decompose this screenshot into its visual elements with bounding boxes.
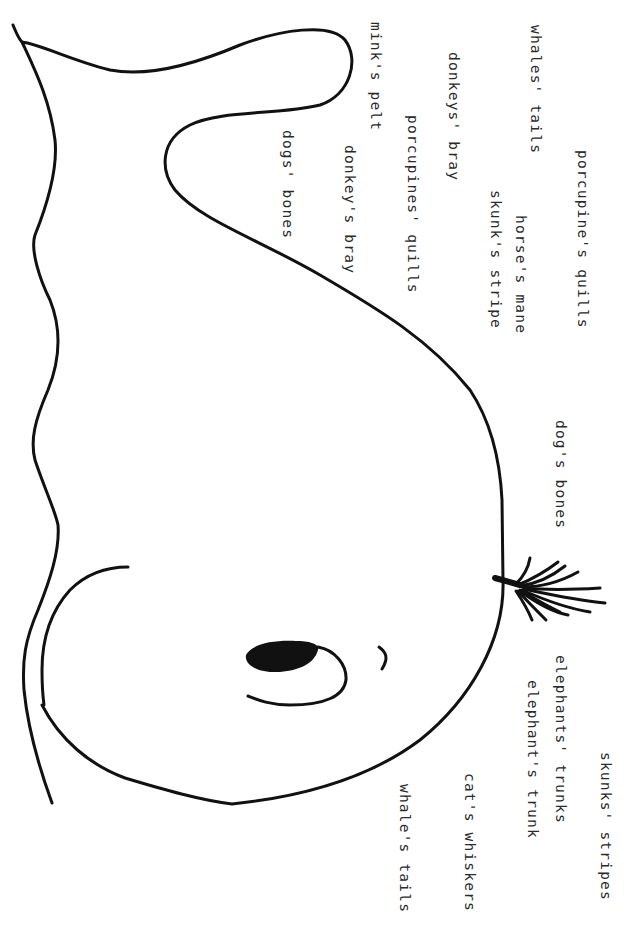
pupil bbox=[246, 641, 318, 672]
body-outline-back bbox=[22, 42, 58, 803]
worksheet-page: porcupine's quills whales' tails horse's… bbox=[0, 0, 640, 936]
label-donkeys-bray-singular: donkey's bray bbox=[342, 145, 358, 274]
label-skunks-stripes-plural: skunks' stripes bbox=[598, 752, 614, 901]
label-skunks-stripe-singular: skunk's stripe bbox=[488, 190, 504, 329]
label-elephants-trunk-singular: elephant's trunk bbox=[525, 680, 541, 839]
tail-fluke-outline bbox=[13, 25, 503, 580]
label-cats-whiskers: cat's whiskers bbox=[462, 773, 478, 912]
body-outline-lower bbox=[42, 580, 503, 804]
label-minks-pelt: mink's pelt bbox=[368, 22, 384, 131]
flipper bbox=[42, 567, 128, 705]
label-porcupines-quills-plural: porcupines' quills bbox=[405, 115, 421, 294]
whale-drawing bbox=[0, 0, 640, 936]
blowhole-spout bbox=[495, 558, 605, 620]
brow-mark bbox=[379, 647, 386, 669]
label-horses-mane: horse's mane bbox=[513, 215, 529, 334]
label-porcupines-quills-singular: porcupine's quills bbox=[575, 150, 591, 329]
label-dogs-bones-singular: dog's bones bbox=[553, 420, 569, 529]
label-dogs-bones-plural: dogs' bones bbox=[280, 130, 296, 239]
label-whales-tails-plural: whales' tails bbox=[528, 25, 544, 154]
label-donkeys-bray-plural: donkeys' bray bbox=[446, 52, 462, 181]
label-whales-tails-singular: whale's tails bbox=[397, 784, 413, 913]
label-elephants-trunks-plural: elephants' trunks bbox=[553, 655, 569, 824]
